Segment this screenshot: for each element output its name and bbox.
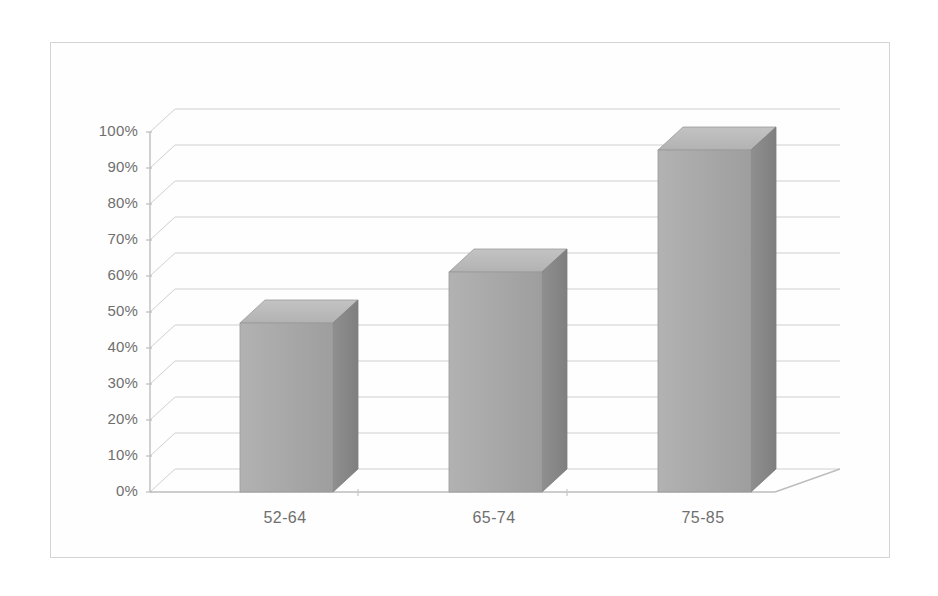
y-tick-label-10: 10% <box>72 446 138 463</box>
y-tick-label-50: 50% <box>72 302 138 319</box>
y-tick-label-0: 0% <box>72 482 138 499</box>
y-tick-label-60: 60% <box>72 266 138 283</box>
x-category-label-1: 52-64 <box>200 509 370 527</box>
y-tick-label-40: 40% <box>72 338 138 355</box>
chart-frame-border <box>50 42 890 558</box>
y-tick-label-30: 30% <box>72 374 138 391</box>
chart-container: 100% 90% 80% 70% 60% 50% 40% 30% 20% 10%… <box>0 0 938 596</box>
y-tick-label-70: 70% <box>72 230 138 247</box>
y-tick-label-20: 20% <box>72 410 138 427</box>
x-category-label-2: 65-74 <box>409 509 579 527</box>
x-category-label-3: 75-85 <box>618 509 788 527</box>
y-tick-label-80: 80% <box>72 194 138 211</box>
y-tick-label-100: 100% <box>72 122 138 139</box>
y-tick-label-90: 90% <box>72 158 138 175</box>
